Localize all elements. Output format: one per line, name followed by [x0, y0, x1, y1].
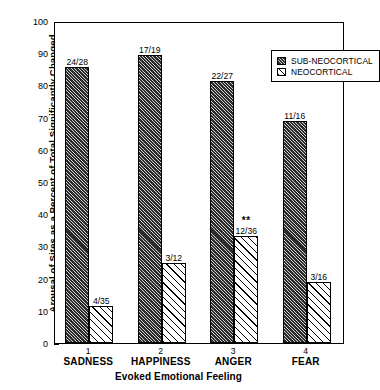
bar-fear-neocortical: [307, 282, 331, 343]
bar-anger-neocortical: [234, 236, 258, 343]
y-tick-mark: [54, 344, 59, 345]
bar-value-label: 4/35: [93, 296, 110, 306]
y-tick-label: 10: [26, 307, 48, 317]
bar-value-label: 3/16: [310, 272, 327, 282]
y-tick-label: 40: [26, 210, 48, 220]
x-category-anger: 3ANGER: [215, 347, 252, 368]
legend-swatch-sub-neocortical: [277, 57, 286, 65]
plot-area: 24/284/3517/193/1222/2712/36**11/163/16 …: [54, 22, 344, 344]
bar-significance-annotation: **: [242, 215, 251, 226]
x-category-number: 2: [131, 347, 191, 356]
y-tick-label: 50: [26, 178, 48, 188]
x-category-name: FEAR: [292, 356, 320, 368]
bar-fear-sub-neocortical: [283, 121, 307, 343]
bar-value-label: 22/27: [211, 71, 233, 81]
x-category-number: 4: [292, 347, 320, 356]
x-category-number: 1: [63, 347, 113, 356]
bar-value-label: 11/16: [284, 111, 305, 121]
y-tick-label: 60: [26, 146, 48, 156]
x-axis-title: Evoked Emotional Feeling: [0, 371, 357, 382]
bar-anger-sub-neocortical: [210, 81, 234, 343]
legend-item-neocortical: NEOCORTICAL: [277, 66, 373, 77]
legend-label-sub-neocortical: SUB-NEOCORTICAL: [291, 56, 373, 66]
chart-legend: SUB-NEOCORTICAL NEOCORTICAL: [271, 50, 380, 82]
y-tick-label: 90: [26, 49, 48, 59]
y-tick-label: 70: [26, 114, 48, 124]
x-category-number: 3: [215, 347, 252, 356]
bar-happiness-neocortical: [162, 263, 186, 344]
legend-label-neocortical: NEOCORTICAL: [291, 67, 352, 77]
bar-value-label: 3/12: [165, 253, 182, 263]
y-tick-label: 20: [26, 275, 48, 285]
bar-value-label: 24/28: [66, 57, 88, 67]
bar-sadness-neocortical: [89, 306, 113, 343]
x-category-name: HAPPINESS: [131, 356, 191, 368]
y-tick-label: 100: [26, 17, 48, 27]
bar-sadness-sub-neocortical: [65, 67, 89, 343]
bar-value-label: 12/36: [235, 226, 257, 236]
y-tick-label: 0: [26, 339, 48, 349]
legend-swatch-neocortical: [277, 68, 286, 76]
x-category-name: ANGER: [215, 356, 252, 368]
legend-item-sub-neocortical: SUB-NEOCORTICAL: [277, 55, 373, 66]
bar-value-label: 17/19: [139, 45, 161, 55]
y-tick-label: 80: [26, 81, 48, 91]
x-category-name: SADNESS: [63, 356, 113, 368]
y-tick-label: 30: [26, 242, 48, 252]
x-category-fear: 4FEAR: [292, 347, 320, 368]
x-category-happiness: 2HAPPINESS: [131, 347, 191, 368]
bar-happiness-sub-neocortical: [138, 55, 162, 343]
x-category-sadness: 1SADNESS: [63, 347, 113, 368]
